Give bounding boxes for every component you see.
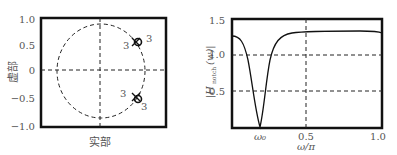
figure: 3 3 3 3 1.0 0.5 0 −0.5 −1.0 实部 虚部 1.5 1.… [0, 0, 397, 155]
mult-label: 3 [141, 101, 147, 112]
right-plot-frame [232, 19, 382, 128]
x-axis-label: 实部 [89, 135, 111, 149]
mult-label: 3 [146, 33, 152, 44]
svg-text:(w)|: (w)| [204, 45, 216, 65]
mult-label: 3 [123, 40, 129, 51]
y-tick: 1.0 [19, 14, 35, 25]
y-axis-label: 虚部 [6, 61, 20, 83]
y-tick: 1.5 [209, 15, 225, 26]
y-tick: −1.0 [11, 121, 35, 132]
y-tick: −0.5 [11, 93, 35, 104]
pole-zero-plot: 3 3 3 3 1.0 0.5 0 −0.5 −1.0 实部 虚部 [6, 14, 166, 149]
x-tick: ω₀ [254, 131, 266, 142]
unit-circle [57, 24, 145, 118]
magnitude-plot: 1.5 1.0 0.5 ω₀ 0.5 1.0 ω/π |H notch (w)| [204, 15, 386, 152]
y-tick: 0.5 [19, 40, 35, 51]
mult-label: 3 [120, 88, 126, 99]
x-axis-label: ω/π [297, 141, 316, 152]
y-tick: 0 [29, 65, 35, 76]
svg-text:notch: notch [210, 67, 217, 84]
x-tick: 1.0 [370, 131, 386, 142]
magnitude-curve [232, 31, 382, 127]
svg-text:|H: |H [204, 86, 216, 98]
